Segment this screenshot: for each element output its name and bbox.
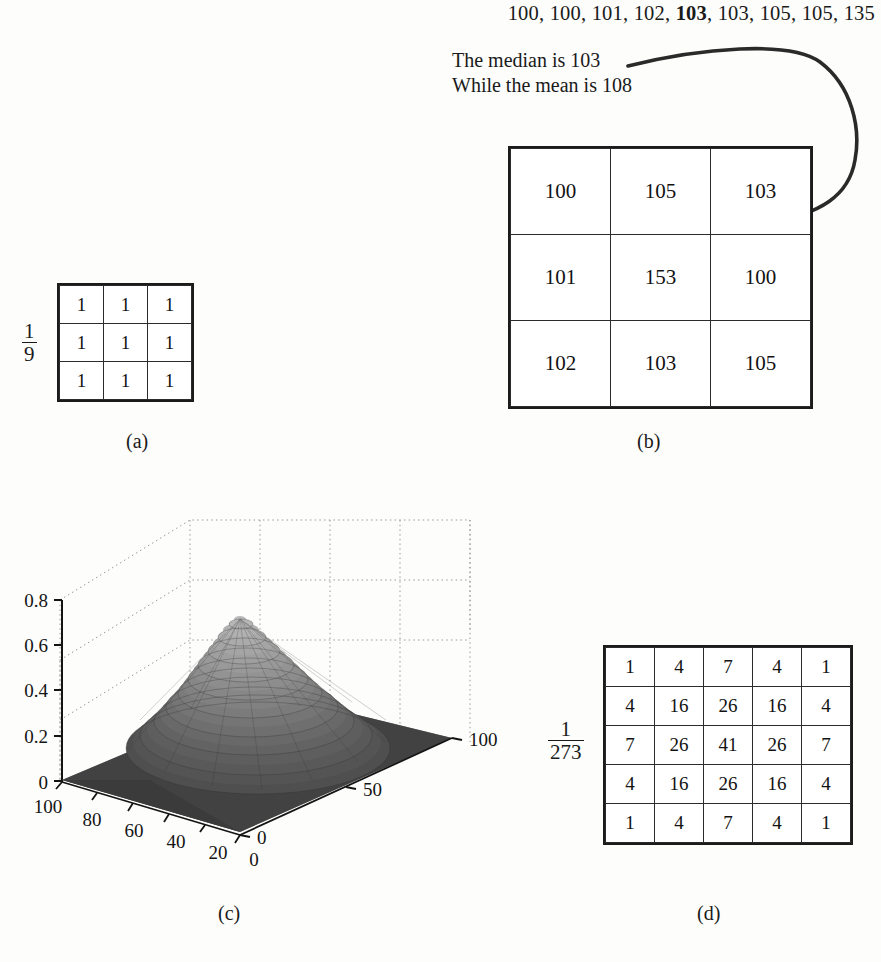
- kernel-cell: 7: [704, 648, 753, 687]
- pixel-cell: 101: [511, 235, 611, 321]
- kernel-cell: 4: [606, 687, 655, 726]
- kernel-cell: 1: [802, 648, 851, 687]
- values-suffix: , 103, 105, 105, 135: [707, 2, 875, 24]
- x-tick-label: 80: [83, 809, 102, 830]
- z-tick-label: 0.4: [24, 680, 48, 701]
- table-row: 4 16 26 16 4: [606, 765, 851, 804]
- kernel-cell: 4: [753, 804, 802, 843]
- kernel-cell: 1: [606, 804, 655, 843]
- annotation-line-mean: While the mean is 108: [452, 73, 632, 98]
- kernel-cell: 16: [655, 687, 704, 726]
- y-tick-label: 50: [363, 779, 382, 800]
- table-row: 102 103 105: [511, 321, 811, 407]
- median-value: 103: [676, 2, 707, 24]
- z-axis: [54, 600, 62, 782]
- table-row: 1 1 1: [60, 324, 192, 362]
- kernel-cell: 26: [704, 765, 753, 804]
- kernel-cell: 1: [148, 362, 192, 400]
- kernel-cell: 1: [60, 286, 104, 324]
- table-row: 100 105 103: [511, 149, 811, 235]
- mean-filter-kernel-table: 1 1 1 1 1 1 1 1 1: [57, 283, 194, 402]
- kernel-cell: 1: [60, 362, 104, 400]
- x-tick-label: 0: [249, 849, 259, 870]
- z-tick-label: 0.6: [24, 635, 48, 656]
- fraction-numerator: 1: [22, 320, 37, 342]
- table-row: 1 1 1: [60, 362, 192, 400]
- kernel-cell: 4: [802, 687, 851, 726]
- gaussian-kernel-table: 1 4 7 4 1 4 16 26 16 4 7 26 41 26: [603, 645, 853, 845]
- panel-caption-b: (b): [637, 430, 660, 453]
- pixel-neighborhood-table: 100 105 103 101 153 100 102 103 105: [508, 146, 813, 409]
- median-mean-annotation: The median is 103 While the mean is 108: [452, 48, 632, 98]
- pixel-cell: 102: [511, 321, 611, 407]
- surface-plot-canvas: 0.8 0.6 0.4 0.2 0: [0, 480, 500, 880]
- z-tick-label: 0: [39, 772, 49, 793]
- panel-caption-d: (d): [697, 902, 720, 925]
- kernel-cell: 16: [753, 765, 802, 804]
- table-row: 7 26 41 26 7: [606, 726, 851, 765]
- kernel-cell: 4: [802, 765, 851, 804]
- kernel-cell: 4: [606, 765, 655, 804]
- annotation-line-median: The median is 103: [452, 48, 632, 73]
- kernel-cell: 26: [704, 687, 753, 726]
- x-tick-label: 40: [167, 831, 186, 852]
- pixel-cell: 105: [711, 321, 811, 407]
- kernel-cell: 7: [606, 726, 655, 765]
- kernel-cell: 1: [104, 286, 148, 324]
- kernel-cell-center: 41: [704, 726, 753, 765]
- table-row: 1 1 1: [60, 286, 192, 324]
- figure-page: 100, 100, 101, 102, 103, 103, 105, 105, …: [0, 0, 881, 962]
- kernel-cell: 4: [655, 648, 704, 687]
- x-tick-label: 20: [209, 842, 228, 863]
- table-row: 4 16 26 16 4: [606, 687, 851, 726]
- table-row: 1 4 7 4 1: [606, 648, 851, 687]
- panel-caption-a: (a): [126, 430, 148, 453]
- fraction-numerator: 1: [548, 718, 584, 740]
- kernel-cell: 1: [60, 324, 104, 362]
- table-row: 1 4 7 4 1: [606, 804, 851, 843]
- kernel-d-scale-fraction: 1 273: [548, 718, 584, 763]
- scan-showthrough: [500, 572, 505, 594]
- fraction-denominator: 273: [548, 740, 584, 763]
- y-tick-label: 0: [257, 827, 267, 848]
- x-tick-label: 60: [125, 820, 144, 841]
- scan-showthrough: [500, 788, 505, 810]
- kernel-cell: 4: [753, 648, 802, 687]
- kernel-cell: 26: [655, 726, 704, 765]
- kernel-cell: 16: [753, 687, 802, 726]
- pixel-cell: 100: [511, 149, 611, 235]
- kernel-cell: 1: [606, 648, 655, 687]
- z-tick-label: 0.2: [24, 726, 48, 747]
- x-tick-label: 100: [34, 796, 63, 817]
- panel-caption-c: (c): [218, 902, 240, 925]
- kernel-cell: 1: [802, 804, 851, 843]
- kernel-cell: 16: [655, 765, 704, 804]
- pixel-cell: 100: [711, 235, 811, 321]
- kernel-cell: 1: [104, 324, 148, 362]
- kernel-a-scale-fraction: 1 9: [22, 320, 37, 365]
- kernel-cell: 7: [802, 726, 851, 765]
- pixel-cell: 103: [711, 149, 811, 235]
- pixel-cell-center: 153: [611, 235, 711, 321]
- gaussian-surface-plot: 0.8 0.6 0.4 0.2 0: [0, 480, 500, 880]
- y-tick-label: 100: [469, 729, 498, 750]
- kernel-cell: 4: [655, 804, 704, 843]
- kernel-cell: 1: [148, 324, 192, 362]
- fraction-denominator: 9: [22, 342, 37, 365]
- kernel-cell: 1: [104, 362, 148, 400]
- pixel-cell: 105: [611, 149, 711, 235]
- sorted-values-list: 100, 100, 101, 102, 103, 103, 105, 105, …: [285, 2, 875, 25]
- kernel-cell: 7: [704, 804, 753, 843]
- table-row: 101 153 100: [511, 235, 811, 321]
- values-prefix: 100, 100, 101, 102,: [508, 2, 676, 24]
- z-tick-label: 0.8: [24, 590, 48, 611]
- kernel-cell: 26: [753, 726, 802, 765]
- kernel-cell: 1: [148, 286, 192, 324]
- pixel-cell: 103: [611, 321, 711, 407]
